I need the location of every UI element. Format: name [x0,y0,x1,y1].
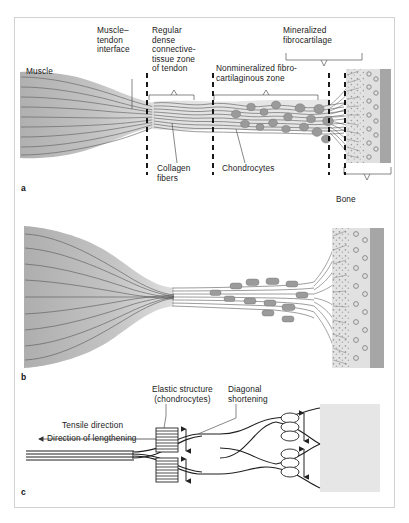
figure-root: Muscle Muscle– tendon interface Regular … [0,0,409,523]
label-diagonal-shortening: Diagonal shortening [228,385,268,404]
panel-b-graphic [14,218,395,378]
bracket-mineralized-zone [286,53,362,66]
label-nonmineralized-fibrocartilaginous-zone: Nonmineralized fibro- cartilaginous zone [216,64,297,83]
chondrocyte-group-b [210,278,308,322]
label-direction-of-lengthening: Direction of lengthening [47,434,137,444]
panel-a-graphic [14,17,395,212]
collagen-fiber-bundles-b [172,282,314,318]
bone-block-c [320,404,380,492]
label-bone: Bone [336,195,356,205]
compressed-spring-upper [156,428,178,452]
mineralized-fibrocartilage-zone [346,69,364,163]
mineralized-fibrocartilage-zone-b [332,228,350,368]
muscle-body [20,72,154,158]
bone-matrix-zone [364,69,380,163]
expanded-coil-lower [281,449,299,477]
label-regular-dense-connective-tissue-zone: Regular dense connective- tissue zone of… [152,26,196,74]
label-elastic-structure-chondrocytes: Elastic structure (chondrocytes) [152,385,213,404]
compact-bone-block-b [370,228,384,368]
leader-chondrocytes [236,129,245,163]
leader-diagonal-shortening [198,404,236,434]
panel-letter-b: b [21,372,26,382]
bracket-nonmineralized-zone [214,90,318,100]
tendon-strands-c [26,451,134,460]
compressed-spring-lower [156,458,178,482]
label-mineralized-fibrocartilage: Mineralized fibrocartilage [283,26,332,45]
panel-letter-c: c [21,487,26,497]
bracket-regular-dense-zone [149,90,194,100]
label-muscle-tendon-interface: Muscle– tendon interface [97,26,130,55]
compact-bone-block [380,69,391,163]
expanded-coil-upper [281,413,299,441]
label-collagen-fibers: Collagen fibers [157,164,191,183]
label-tensile-direction: Tensile direction [62,421,123,431]
bracket-bone [344,167,391,180]
panel-letter-a: a [21,183,26,193]
label-muscle: Muscle [26,67,53,77]
leader-elastic-structure [164,404,166,428]
label-chondrocytes: Chondrocytes [222,164,274,174]
